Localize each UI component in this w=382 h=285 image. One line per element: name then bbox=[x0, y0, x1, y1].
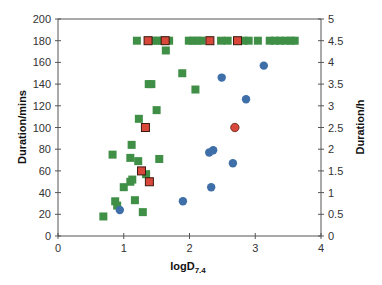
y2-tick-label: 0 bbox=[328, 230, 334, 242]
scatter-chart: 0123402040608010012014016018020000.511.5… bbox=[0, 0, 382, 285]
green-square-point bbox=[155, 155, 163, 163]
green-square-point bbox=[109, 151, 117, 159]
red-square-point bbox=[145, 178, 153, 186]
green-square-point bbox=[197, 37, 205, 45]
y2-tick-label: 3 bbox=[328, 100, 334, 112]
y-tick-label: 160 bbox=[33, 56, 51, 68]
y-tick-label: 140 bbox=[33, 78, 51, 90]
blue-circle-point bbox=[209, 146, 217, 154]
green-square-point bbox=[135, 115, 143, 123]
green-square-point bbox=[291, 37, 299, 45]
red-circle-point bbox=[231, 123, 239, 131]
red-square-point bbox=[138, 167, 146, 175]
green-square-point bbox=[153, 106, 161, 114]
blue-circle-point bbox=[179, 197, 187, 205]
y2-tick-label: 4.5 bbox=[328, 35, 343, 47]
blue-circle-point bbox=[242, 95, 250, 103]
red-square-point bbox=[144, 37, 152, 45]
x-tick-label: 2 bbox=[186, 242, 192, 254]
green-square-point bbox=[245, 37, 253, 45]
y-tick-label: 40 bbox=[39, 187, 51, 199]
y-axis-title: Duration/mins bbox=[16, 90, 28, 164]
y2-tick-label: 2.5 bbox=[328, 122, 343, 134]
y2-tick-label: 2 bbox=[328, 143, 334, 155]
y2-tick-label: 3.5 bbox=[328, 78, 343, 90]
red-square-point bbox=[206, 37, 214, 45]
red-square-point bbox=[161, 37, 169, 45]
blue-circle-point bbox=[116, 206, 124, 214]
data-points bbox=[99, 37, 298, 221]
y-tick-label: 120 bbox=[33, 100, 51, 112]
y-tick-label: 80 bbox=[39, 143, 51, 155]
green-square-point bbox=[147, 80, 155, 88]
green-square-point bbox=[178, 69, 186, 77]
y2-tick-label: 0.5 bbox=[328, 208, 343, 220]
red-square-point bbox=[233, 37, 241, 45]
y-tick-label: 20 bbox=[39, 208, 51, 220]
y-tick-label: 60 bbox=[39, 165, 51, 177]
green-square-point bbox=[254, 37, 262, 45]
y-tick-label: 100 bbox=[33, 122, 51, 134]
blue-circle-point bbox=[207, 183, 215, 191]
red-square-point bbox=[141, 124, 149, 132]
green-square-point bbox=[224, 37, 232, 45]
blue-circle-point bbox=[229, 159, 237, 167]
green-square-point bbox=[191, 86, 199, 94]
green-square-point bbox=[131, 196, 139, 204]
y2-tick-label: 5 bbox=[328, 13, 334, 25]
y2-axis-title: Duration/h bbox=[354, 99, 366, 154]
green-square-point bbox=[134, 157, 142, 165]
blue-circle-point bbox=[260, 61, 268, 69]
y2-tick-label: 1.5 bbox=[328, 165, 343, 177]
green-square-point bbox=[139, 208, 147, 216]
green-square-point bbox=[128, 176, 136, 184]
y-tick-label: 180 bbox=[33, 35, 51, 47]
x-tick-label: 4 bbox=[318, 242, 324, 254]
y2-tick-label: 1 bbox=[328, 187, 334, 199]
y2-tick-label: 4 bbox=[328, 56, 334, 68]
x-tick-label: 3 bbox=[252, 242, 258, 254]
y-tick-label: 0 bbox=[45, 230, 51, 242]
green-square-point bbox=[126, 154, 134, 162]
x-axis-title: logD7.4 bbox=[170, 260, 206, 275]
green-square-point bbox=[128, 141, 136, 149]
x-tick-label: 1 bbox=[121, 242, 127, 254]
y-tick-label: 200 bbox=[33, 13, 51, 25]
x-tick-label: 0 bbox=[55, 242, 61, 254]
axes: 0123402040608010012014016018020000.511.5… bbox=[33, 13, 344, 254]
green-square-point bbox=[133, 37, 141, 45]
blue-circle-point bbox=[218, 73, 226, 81]
green-square-point bbox=[162, 46, 170, 54]
green-square-point bbox=[99, 212, 107, 220]
